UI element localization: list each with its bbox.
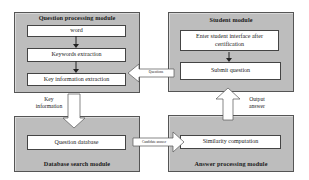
key-information-arrow-icon: [63, 94, 85, 128]
output-answer-label: Output answer: [245, 96, 269, 110]
arrow-keywords-to-keyinfo-icon: [73, 61, 79, 73]
candidate-answer-label: Candidate answer: [133, 140, 175, 144]
connector-layer: [0, 0, 309, 180]
key-information-label: Key information: [32, 96, 66, 110]
output-answer-arrow-icon: [216, 88, 240, 120]
arrow-enter-to-submit-icon: [226, 52, 232, 62]
questions-label: Questions: [139, 70, 173, 74]
arrow-word-to-keywords-icon: [73, 36, 79, 48]
